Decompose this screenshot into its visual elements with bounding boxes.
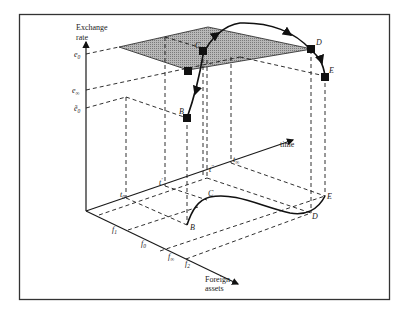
tick-e0: e0 xyxy=(74,50,81,60)
point-e-marker xyxy=(321,73,329,81)
label-d-lower: D xyxy=(311,212,318,221)
tick-t-prime: t′ xyxy=(159,177,163,187)
vertical-axis-label-1: Exchange xyxy=(76,23,108,32)
tick-e0-tilde: ẽ0 xyxy=(74,104,81,114)
point-d-marker xyxy=(307,45,315,53)
label-e-upper: E xyxy=(328,66,334,75)
point-b-marker xyxy=(183,114,191,122)
label-c-upper: C xyxy=(195,41,201,50)
exchange-rate-3d-diagram: Exchange rate time Foreign assets e0 e∞ … xyxy=(0,0,403,316)
time-axis-label: time xyxy=(280,140,295,149)
axes xyxy=(86,42,293,284)
foreign-axis-label-1: Foreign xyxy=(205,275,230,284)
label-b-lower: B xyxy=(190,223,195,232)
shaded-plane xyxy=(119,27,312,70)
tick-t0: t0 xyxy=(120,190,125,200)
tick-e-inf: e∞ xyxy=(72,86,80,96)
label-d-upper: D xyxy=(315,38,322,47)
lower-trajectory xyxy=(187,196,325,225)
tick-f1: f1 xyxy=(112,225,117,235)
foreign-axis-label-2: assets xyxy=(205,284,224,293)
tick-f0: f0 xyxy=(141,239,146,249)
tick-t-inf: t∞ xyxy=(233,155,239,165)
label-b-upper: B xyxy=(179,107,184,116)
label-e-lower: E xyxy=(326,192,332,201)
point-c-lower-marker xyxy=(184,67,192,75)
vertical-axis-label-2: rate xyxy=(76,33,88,42)
label-c-lower: C xyxy=(208,189,214,198)
tick-t-double-prime: t′′ xyxy=(209,164,214,174)
